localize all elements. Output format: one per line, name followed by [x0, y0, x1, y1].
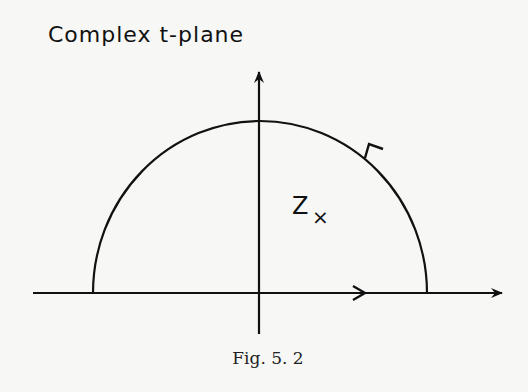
figure: Complex t-plane Z × Fig. 5. 2 — [0, 0, 528, 392]
point-marker: × — [312, 205, 329, 229]
contour-direction-arrow-icon — [365, 144, 383, 158]
contour-diagram: Complex t-plane Z × Fig. 5. 2 — [0, 0, 528, 392]
plane-title: Complex t-plane — [48, 22, 244, 47]
figure-caption: Fig. 5. 2 — [232, 348, 303, 368]
point-label: Z — [292, 192, 308, 220]
